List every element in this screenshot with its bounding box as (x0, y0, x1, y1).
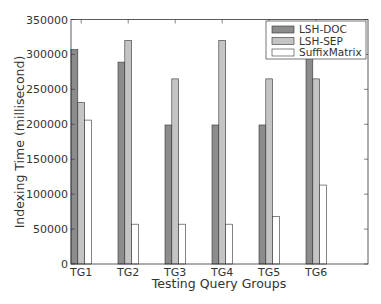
x-tick-label: TG2 (116, 266, 139, 279)
y-axis-label: Indexing Time (millisecond) (12, 56, 27, 229)
bar-lsh-sep-tg1 (78, 103, 85, 264)
y-tick-label: 300000 (26, 48, 68, 61)
bar-lsh-doc-tg2 (118, 62, 125, 264)
bar-lsh-sep-tg4 (219, 40, 226, 264)
y-tick-label: 50000 (33, 223, 68, 236)
x-axis-label: Testing Query Groups (151, 276, 286, 291)
bar-suffixmatrix-tg4 (226, 224, 233, 264)
bar-chart: 0500001000001500002000002500003000003500… (0, 0, 381, 304)
legend-label-lsh-doc: LSH-DOC (299, 23, 347, 35)
y-tick-label: 200000 (26, 118, 68, 131)
bar-lsh-sep-tg6 (313, 79, 320, 264)
bar-lsh-sep-tg3 (172, 79, 179, 264)
bar-lsh-doc-tg5 (259, 125, 266, 264)
bar-suffixmatrix-tg3 (179, 224, 186, 264)
y-tick-label: 250000 (26, 83, 68, 96)
bar-suffixmatrix-tg2 (132, 224, 139, 264)
bar-suffixmatrix-tg5 (273, 216, 280, 264)
bar-lsh-doc-tg6 (306, 54, 313, 264)
bar-lsh-sep-tg2 (125, 40, 132, 264)
y-tick-label: 0 (61, 258, 68, 271)
legend-swatch-lsh-doc (272, 26, 294, 33)
bar-lsh-sep-tg5 (266, 79, 273, 264)
x-tick-label: TG1 (69, 266, 92, 279)
legend-label-suffixmatrix: SuffixMatrix (299, 46, 362, 58)
bar-lsh-doc-tg4 (212, 125, 219, 264)
bar-lsh-doc-tg3 (165, 125, 172, 264)
legend-swatch-lsh-sep (272, 38, 294, 45)
x-tick-label: TG6 (304, 266, 327, 279)
legend: LSH-DOC LSH-SEP SuffixMatrix (266, 21, 366, 59)
y-tick-label: 100000 (26, 188, 68, 201)
legend-label-lsh-sep: LSH-SEP (299, 35, 343, 47)
bar-suffixmatrix-tg1 (85, 120, 92, 264)
bar-suffixmatrix-tg6 (320, 185, 327, 264)
bars-group (71, 40, 326, 264)
y-tick-label: 350000 (26, 14, 68, 27)
bar-lsh-doc-tg1 (71, 50, 78, 264)
y-tick-label: 150000 (26, 153, 68, 166)
legend-swatch-suffixmatrix (272, 49, 294, 56)
